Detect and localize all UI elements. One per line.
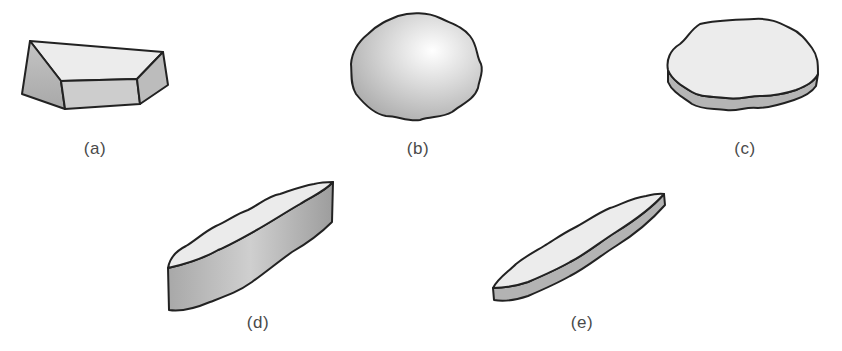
blade-top xyxy=(493,194,664,288)
shape-c-disc xyxy=(668,19,819,111)
label-a: (a) xyxy=(84,139,106,159)
shape-b-sphere xyxy=(351,13,482,120)
front-face xyxy=(61,79,140,109)
shape-a-angular-block xyxy=(22,41,168,109)
label-b: (b) xyxy=(407,139,429,159)
label-d: (d) xyxy=(247,313,269,333)
shape-d-bar xyxy=(168,182,333,311)
disc-top xyxy=(668,19,819,99)
label-e: (e) xyxy=(571,313,593,333)
label-c: (c) xyxy=(734,139,755,159)
particle-shapes-figure xyxy=(0,0,842,351)
shape-e-blade xyxy=(493,194,665,301)
